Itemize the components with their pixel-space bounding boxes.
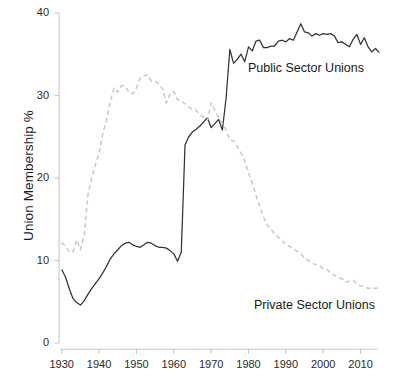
series-line-private-sector [62, 75, 380, 289]
x-tick-label: 1970 [191, 358, 231, 370]
series-label-public-sector: Public Sector Unions [248, 61, 364, 75]
x-tick-label: 1940 [79, 358, 119, 370]
x-tick-label: 1960 [154, 358, 194, 370]
x-tick-label: 2010 [341, 358, 381, 370]
y-tick-label: 0 [23, 336, 49, 348]
series-label-private-sector: Private Sector Unions [254, 298, 375, 312]
y-axis-ticks [55, 13, 60, 343]
x-axis-ticks [62, 349, 361, 354]
x-tick-label: 1990 [266, 358, 306, 370]
y-tick-label: 30 [23, 89, 49, 101]
union-membership-chart: Union Membership % 010203040 19301940195… [0, 0, 394, 380]
y-tick-label: 10 [23, 254, 49, 266]
chart-plot-area [0, 0, 394, 380]
y-tick-label: 20 [23, 171, 49, 183]
x-tick-label: 1980 [229, 358, 269, 370]
y-tick-label: 40 [23, 6, 49, 18]
x-tick-label: 1950 [116, 358, 156, 370]
x-tick-label: 1930 [42, 358, 82, 370]
x-tick-label: 2000 [303, 358, 343, 370]
